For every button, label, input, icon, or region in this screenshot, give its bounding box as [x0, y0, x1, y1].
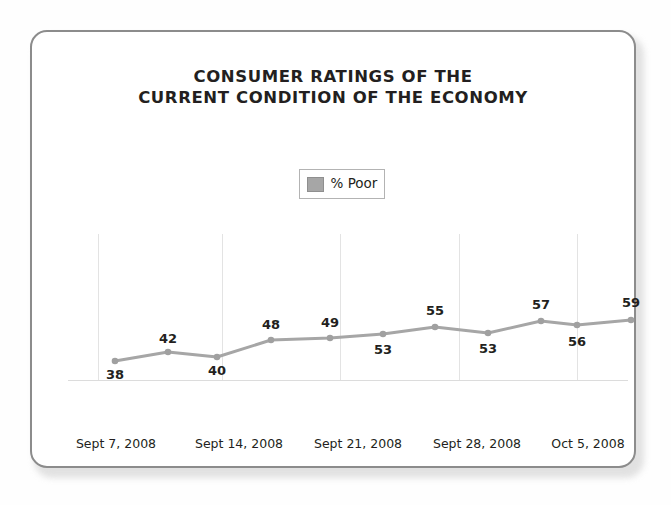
data-label-3: 48 — [262, 318, 280, 331]
x-axis-labels: Sept 7, 2008 Sept 14, 2008 Sept 21, 2008… — [68, 438, 638, 458]
chart-title: CONSUMER RATINGS OF THE CURRENT CONDITIO… — [32, 66, 634, 108]
data-label-4: 49 — [321, 316, 339, 329]
data-label-7: 53 — [479, 342, 497, 355]
data-label-5: 53 — [374, 343, 392, 356]
chart-title-line-2: CURRENT CONDITION OF THE ECONOMY — [32, 87, 634, 108]
x-tick-label-1: Sept 14, 2008 — [195, 438, 283, 451]
data-label-8: 57 — [532, 298, 550, 311]
legend-label-poor: % Poor — [331, 177, 378, 191]
x-tick-label-2: Sept 21, 2008 — [314, 438, 402, 451]
chart-title-line-1: CONSUMER RATINGS OF THE — [32, 66, 634, 87]
data-label-2: 40 — [208, 364, 226, 377]
data-label-6: 55 — [426, 304, 444, 317]
x-tick-label-4: Oct 5, 2008 — [551, 438, 624, 451]
plot-area: 38 42 40 48 49 53 55 53 57 56 59 — [68, 234, 628, 412]
data-label-9: 56 — [568, 335, 586, 348]
data-label-1: 42 — [159, 332, 177, 345]
data-label-10: 59 — [622, 296, 640, 309]
chart-card: CONSUMER RATINGS OF THE CURRENT CONDITIO… — [30, 30, 636, 468]
legend-swatch-icon — [307, 177, 324, 192]
x-tick-label-3: Sept 28, 2008 — [433, 438, 521, 451]
chart-legend: % Poor — [299, 169, 385, 199]
x-tick-label-0: Sept 7, 2008 — [76, 438, 156, 451]
data-label-0: 38 — [106, 368, 124, 381]
